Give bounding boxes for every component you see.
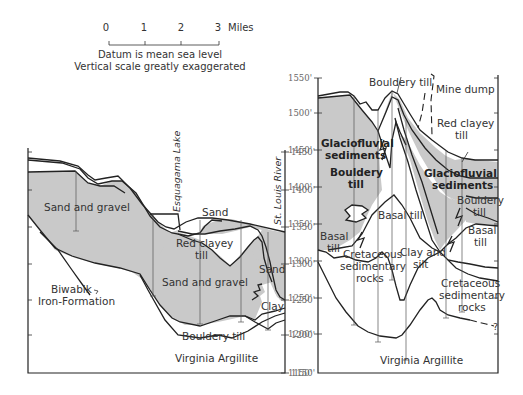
bouldery-till-label: Bouldery till bbox=[182, 330, 245, 342]
clay-label: Clay bbox=[261, 300, 284, 312]
inferred-contact-dashed bbox=[470, 320, 494, 326]
vertical-scale-note: Vertical scale greatly exaggerated bbox=[74, 61, 245, 72]
clay-silt-label-2: silt bbox=[413, 258, 428, 270]
sand-upper-label: Sand bbox=[202, 206, 228, 218]
right-cross-section: 1550' 1500' 1450' 1400' 1350' 1300' 1250… bbox=[288, 73, 505, 378]
basal-till-center-label: Basal till bbox=[378, 209, 423, 221]
virginia-argillite-right-label: Virginia Argillite bbox=[380, 354, 463, 366]
glaciofluvial-left-label-1: Glaciofluvial bbox=[321, 137, 394, 149]
biwabik-leader bbox=[94, 290, 98, 294]
clay-silt-label-1: Clay and bbox=[400, 246, 446, 258]
cretaceous-right-label-2: sedimentary bbox=[439, 289, 505, 301]
query-mark: ? bbox=[493, 321, 498, 332]
thrust-mark-4 bbox=[448, 236, 454, 252]
red-clayey-label-2: till bbox=[195, 249, 208, 261]
glaciofluvial-right-label-2: sediments bbox=[432, 179, 493, 191]
right-axis-label-1250: 1250' bbox=[288, 293, 312, 303]
biwabik-label-2: Iron-Formation bbox=[38, 295, 115, 307]
mine-dump-boundary-left bbox=[418, 93, 425, 128]
right-axis-label-1350: 1350' bbox=[288, 219, 312, 229]
datum-note: Datum is mean sea level bbox=[98, 49, 222, 60]
well-r4 bbox=[403, 120, 409, 360]
right-axis-label-1200: 1200' bbox=[288, 329, 312, 339]
right-axis-label-1500: 1500' bbox=[288, 108, 312, 118]
geologic-cross-section: 0 1 2 3 Miles Datum is mean sea level Ve… bbox=[0, 0, 523, 395]
bouldery-left-label-1: Bouldery bbox=[330, 166, 383, 178]
scale-tick-2: 2 bbox=[178, 22, 184, 33]
right-axis-label-1550: 1550' bbox=[288, 73, 312, 83]
cretaceous-left-label-2: sedimentary bbox=[340, 260, 406, 272]
sand-right-label: Sand bbox=[259, 263, 285, 275]
cretaceous-left-label-3: rocks bbox=[356, 272, 384, 284]
red-clayey-label-1: Red clayey bbox=[437, 117, 494, 129]
scale-unit: Miles bbox=[228, 22, 254, 33]
glaciofluvial-right-label-1: Glaciofluvial bbox=[424, 167, 497, 179]
left-cross-section: 1450' 1400' 1350' 1300' 1250' 1200' 1150… bbox=[28, 131, 315, 378]
basal-right-label-1: Basal bbox=[468, 224, 496, 236]
biwabik-label-1: Biwabik bbox=[51, 283, 93, 295]
basal-left-label-1: Basal bbox=[320, 230, 348, 242]
bouldery-left-label-2: till bbox=[348, 178, 364, 190]
scale-tick-0: 0 bbox=[103, 22, 109, 33]
cretaceous-right-label-1: Cretaceous bbox=[441, 277, 500, 289]
basal-right-label-2: till bbox=[474, 236, 487, 248]
cretaceous-right-label-3: rocks bbox=[458, 301, 486, 313]
scale-bar: 0 1 2 3 Miles Datum is mean sea level Ve… bbox=[74, 22, 253, 72]
sand-gravel-lower-label: Sand and gravel bbox=[162, 276, 248, 288]
right-axis-label-1150: 1150' bbox=[288, 368, 312, 378]
right-axis-label-1450: 1450' bbox=[288, 145, 312, 155]
basal-left-label-2: till bbox=[327, 242, 340, 254]
bouldery-right-label-1: Bouldery bbox=[457, 194, 504, 206]
esquagama-lake-label: Esquagama Lake bbox=[171, 131, 182, 212]
bouldery-right-label-2: till bbox=[473, 206, 486, 218]
scale-tick-3: 3 bbox=[215, 22, 221, 33]
virginia-argillite-left-label: Virginia Argillite bbox=[175, 352, 258, 364]
mine-dump-label: Mine dump bbox=[436, 83, 495, 95]
bouldery-till-top-label: Bouldery till bbox=[369, 76, 432, 88]
scale-tick-1: 1 bbox=[141, 22, 147, 33]
right-axis-label-1300: 1300' bbox=[288, 256, 312, 266]
scale-bar-line bbox=[109, 41, 219, 45]
right-axis-label-1400: 1400' bbox=[288, 182, 312, 192]
cretaceous-left-label-1: Cretaceous bbox=[343, 248, 402, 260]
st-louis-river-label: St. Louis River bbox=[272, 156, 283, 225]
glaciofluvial-left-label-2: sediments bbox=[325, 149, 386, 161]
sand-gravel-upper-label: Sand and gravel bbox=[44, 201, 130, 213]
thrust-mark-3 bbox=[358, 232, 364, 248]
red-clayey-label-1: Red clayey bbox=[176, 237, 233, 249]
red-clayey-label-2: till bbox=[455, 129, 468, 141]
